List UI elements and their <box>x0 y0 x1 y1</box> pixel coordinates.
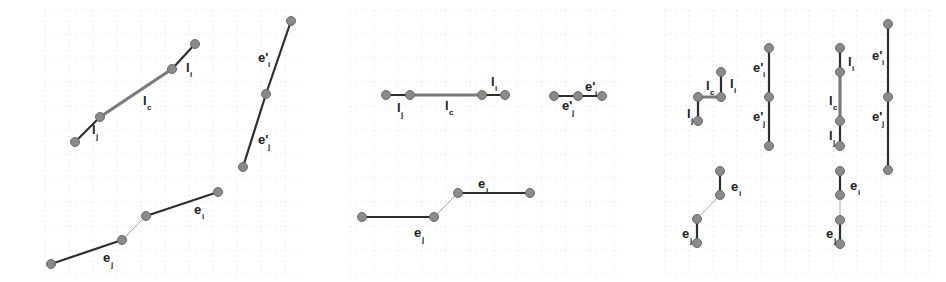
panel-4-bottom: eiej <box>826 167 860 249</box>
edge-label-subscript: i <box>858 188 860 197</box>
node-circle <box>118 236 127 245</box>
node-circle <box>430 213 439 222</box>
node-circle <box>142 212 151 221</box>
node-circle <box>501 91 510 100</box>
node-circle <box>406 91 415 100</box>
edge-label-subscript: j <box>95 132 98 141</box>
node-circle <box>716 167 725 176</box>
node-circle <box>598 92 607 101</box>
node-circle <box>693 239 702 248</box>
node-circle <box>836 142 845 151</box>
edge-label: e' <box>585 79 595 94</box>
edge-label: e <box>682 226 689 241</box>
panel-3-top-left: ljlcli <box>687 68 736 126</box>
node-circle <box>358 213 367 222</box>
edge-label-subscript: j <box>571 108 574 117</box>
node-circle <box>239 163 248 172</box>
edge-label: e' <box>872 109 882 124</box>
node-circle <box>884 93 893 102</box>
edge-label-subscript: j <box>267 142 270 151</box>
edge-label: e <box>478 176 485 191</box>
node-circle <box>96 113 105 122</box>
node-circle <box>694 93 703 102</box>
common-edge-line <box>100 69 172 117</box>
node-circle <box>526 189 535 198</box>
edge-label: e' <box>753 109 763 124</box>
grid-region <box>350 10 625 275</box>
node-circle <box>262 90 271 99</box>
node-circle <box>836 191 845 200</box>
node-circle <box>287 17 296 26</box>
edge-line <box>172 44 195 69</box>
edge-label-subscript: j <box>689 236 692 245</box>
node-circle <box>717 93 726 102</box>
edge-label: e' <box>753 60 763 75</box>
panel-1-top-right: e'ie'j <box>239 17 296 172</box>
edge-line <box>146 192 218 216</box>
node-circle <box>836 216 845 225</box>
edge-label: e' <box>562 98 572 113</box>
panel-3-bottom: eiej <box>682 167 741 248</box>
edge-label-subscript: i <box>882 58 884 67</box>
background-grid <box>45 10 935 275</box>
node-circle <box>716 191 725 200</box>
diagram-canvas: ljlclie'ie'jejeiljlclie'je'iejeiljlclie'… <box>0 0 946 282</box>
grid-region <box>665 10 935 275</box>
node-circle <box>550 92 559 101</box>
edge-label-subscript: i <box>202 212 204 221</box>
node-circle <box>693 215 702 224</box>
node-circle <box>168 65 177 74</box>
edge-label-subscript: j <box>690 116 693 125</box>
edge-label-subscript: c <box>833 103 838 112</box>
edge-label-subscript: i <box>595 89 597 98</box>
panel-3-top-right: e'ie'j <box>753 44 774 151</box>
node-circle <box>765 44 774 53</box>
edge-label: e <box>103 250 110 265</box>
node-circle <box>382 91 391 100</box>
node-circle <box>478 91 487 100</box>
edge-label-subscript: i <box>190 70 192 79</box>
node-circle <box>836 44 845 53</box>
connector-line <box>122 216 146 240</box>
edge-label-subscript: j <box>110 260 113 269</box>
node-circle <box>214 188 223 197</box>
node-circle <box>191 40 200 49</box>
node-circle <box>836 117 845 126</box>
panel-1-bottom: ejei <box>47 188 223 270</box>
edge-label-subscript: j <box>832 138 835 147</box>
edge-label-subscript: c <box>147 103 152 112</box>
edge-label-subscript: i <box>268 60 270 69</box>
node-circle <box>836 240 845 249</box>
node-circle <box>574 92 583 101</box>
node-circle <box>884 20 893 29</box>
edge-label: e' <box>258 50 268 65</box>
node-circle <box>765 142 774 151</box>
edge-label-subscript: j <box>833 236 836 245</box>
edge-label-subscript: i <box>852 64 854 73</box>
edge-label-subscript: c <box>710 88 715 97</box>
edge-label-subscript: j <box>762 119 765 128</box>
node-circle <box>717 68 726 77</box>
node-circle <box>836 167 845 176</box>
edge-label: e' <box>872 48 882 63</box>
edge-label: e <box>826 226 833 241</box>
edge-label: e <box>850 178 857 193</box>
edge-label: e' <box>258 132 268 147</box>
edge-label-subscript: j <box>421 235 424 244</box>
edge-label-subscript: i <box>739 189 741 198</box>
edge-label-subscript: j <box>400 110 403 119</box>
edge-label-subscript: i <box>734 86 736 95</box>
node-circle <box>765 93 774 102</box>
node-circle <box>836 68 845 77</box>
edge-label-subscript: i <box>495 84 497 93</box>
edge-label: e <box>194 202 201 217</box>
edge-pair-diagram: ljlclie'ie'jejeiljlclie'je'iejeiljlclie'… <box>0 0 946 282</box>
edge-label: e <box>414 225 421 240</box>
node-circle <box>454 189 463 198</box>
node-circle <box>694 117 703 126</box>
node-circle <box>884 166 893 175</box>
panel-2-top-right: e'je'i <box>550 79 607 117</box>
panel-4-top-right: e'ie'j <box>872 20 893 175</box>
edge-label-subscript: j <box>881 119 884 128</box>
node-circle <box>47 260 56 269</box>
